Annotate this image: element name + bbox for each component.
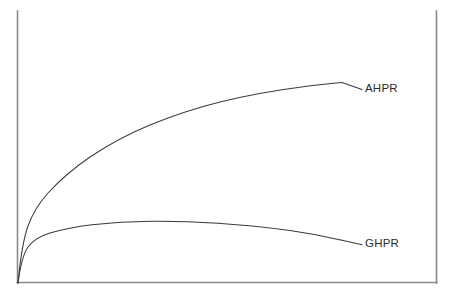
leader-line-ahpr: [342, 83, 362, 90]
chart-plot-area: [0, 0, 451, 296]
chart-figure: AHPR GHPR: [0, 0, 451, 296]
series-line-ahpr: [18, 83, 342, 283]
series-line-ghpr: [18, 221, 342, 283]
series-label-ahpr: AHPR: [365, 83, 398, 95]
series-label-ghpr: GHPR: [365, 238, 399, 250]
leader-line-ghpr: [342, 240, 362, 245]
